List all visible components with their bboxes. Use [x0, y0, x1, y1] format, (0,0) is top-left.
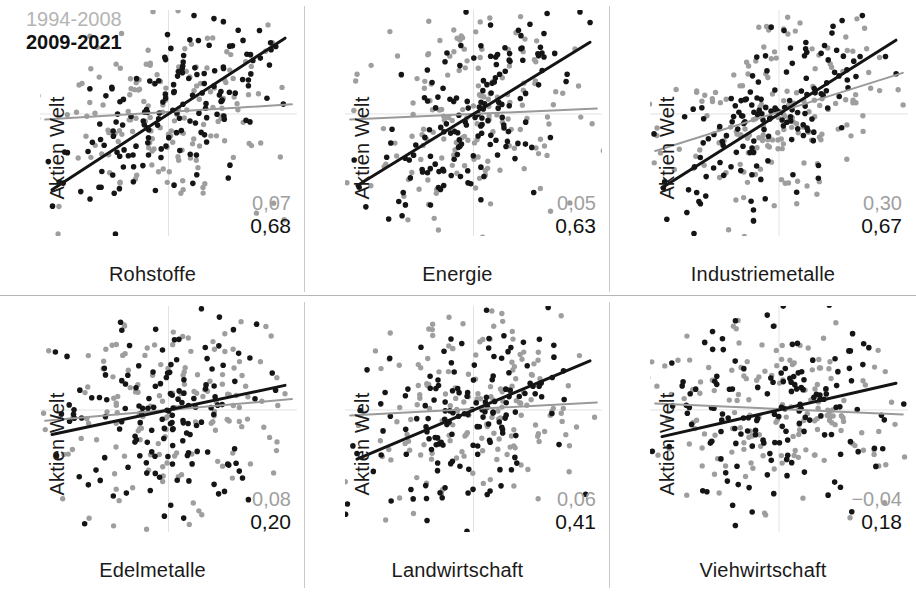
y-axis-label: Aktien Welt: [656, 97, 679, 200]
correlation-value-old: 0,07: [250, 192, 291, 214]
y-axis-label: Aktien Welt: [351, 97, 374, 200]
x-axis-label: Energie: [305, 263, 610, 286]
correlation-annotation: 0,050,63: [555, 192, 596, 238]
scatter-panel-energie: Aktien Welt0,050,63Energie: [305, 0, 610, 296]
correlation-annotation: 0,080,20: [250, 488, 291, 534]
correlation-value-new: 0,68: [250, 214, 291, 238]
correlation-value-new: 0,63: [555, 214, 596, 238]
scatter-panel-landwirtschaft: Aktien Welt0,060,41Landwirtschaft: [305, 296, 610, 592]
x-axis-label: Rohstoffe: [0, 263, 305, 286]
correlation-annotation: 0,070,68: [250, 192, 291, 238]
y-axis-label: Aktien Welt: [46, 393, 69, 496]
legend: 1994-20082009-2021: [26, 8, 122, 54]
y-axis-label: Aktien Welt: [656, 393, 679, 496]
correlation-value-new: 0,20: [250, 510, 291, 534]
correlation-value-old: 0,05: [555, 192, 596, 214]
scatter-panel-rohstoffe: 1994-20082009-2021Aktien Welt0,070,68Roh…: [0, 0, 305, 296]
scatter-panel-industriemetalle: Aktien Welt0,300,67Industriemetalle: [610, 0, 916, 296]
x-axis-label: Edelmetalle: [0, 559, 305, 582]
legend-label-new-period: 2009-2021: [26, 31, 122, 54]
correlation-value-old: 0,30: [861, 192, 902, 214]
correlation-value-new: 0,18: [851, 510, 902, 534]
scatter-panel-edelmetalle: Aktien Welt0,080,20Edelmetalle: [0, 296, 305, 592]
x-axis-label: Landwirtschaft: [305, 559, 610, 582]
correlation-annotation: 0,060,41: [555, 488, 596, 534]
correlation-annotation: 0,300,67: [861, 192, 902, 238]
x-axis-label: Industriemetalle: [610, 263, 916, 286]
correlation-value-old: −0,04: [851, 488, 902, 510]
correlation-annotation: −0,040,18: [851, 488, 902, 534]
y-axis-label: Aktien Welt: [46, 97, 69, 200]
y-axis-label: Aktien Welt: [351, 393, 374, 496]
correlation-value-old: 0,08: [250, 488, 291, 510]
scatter-plot-matrix: 1994-20082009-2021Aktien Welt0,070,68Roh…: [0, 0, 916, 592]
correlation-value-new: 0,41: [555, 510, 596, 534]
scatter-panel-viehwirtschaft: Aktien Welt−0,040,18Viehwirtschaft: [610, 296, 916, 592]
points-2009-2021: [345, 306, 588, 532]
legend-label-old-period: 1994-2008: [26, 8, 122, 31]
correlation-value-new: 0,67: [861, 214, 902, 238]
correlation-value-old: 0,06: [555, 488, 596, 510]
x-axis-label: Viehwirtschaft: [610, 559, 916, 582]
